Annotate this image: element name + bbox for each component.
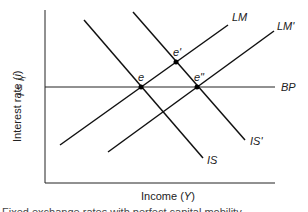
point-e: [139, 85, 144, 90]
x-axis-label: Income (Y): [141, 190, 195, 202]
is-curve: [84, 20, 203, 158]
label-e-double-prime: e": [194, 71, 205, 83]
lm-curve: [60, 25, 228, 145]
label-is-prime: IS': [250, 135, 263, 147]
y-axis-label: Interest rate (i): [11, 70, 23, 142]
svg-text:Interest rate (i): Interest rate (i): [11, 70, 23, 142]
point-e-double-prime: [195, 85, 200, 90]
lm-prime-curve: [108, 31, 274, 152]
label-is: IS: [207, 154, 218, 166]
label-e-prime: e': [173, 46, 182, 58]
is-lm-bp-diagram: e e' e" LM LM' BP IS IS' i = if Interest…: [0, 0, 308, 212]
label-lm-prime: LM': [277, 20, 295, 32]
label-bp: BP: [281, 81, 296, 93]
label-lm: LM: [232, 11, 248, 23]
label-e: e: [138, 71, 144, 83]
figure-caption: Fixed exchange rates with perfect capita…: [2, 206, 242, 212]
point-e-prime: [174, 60, 179, 65]
